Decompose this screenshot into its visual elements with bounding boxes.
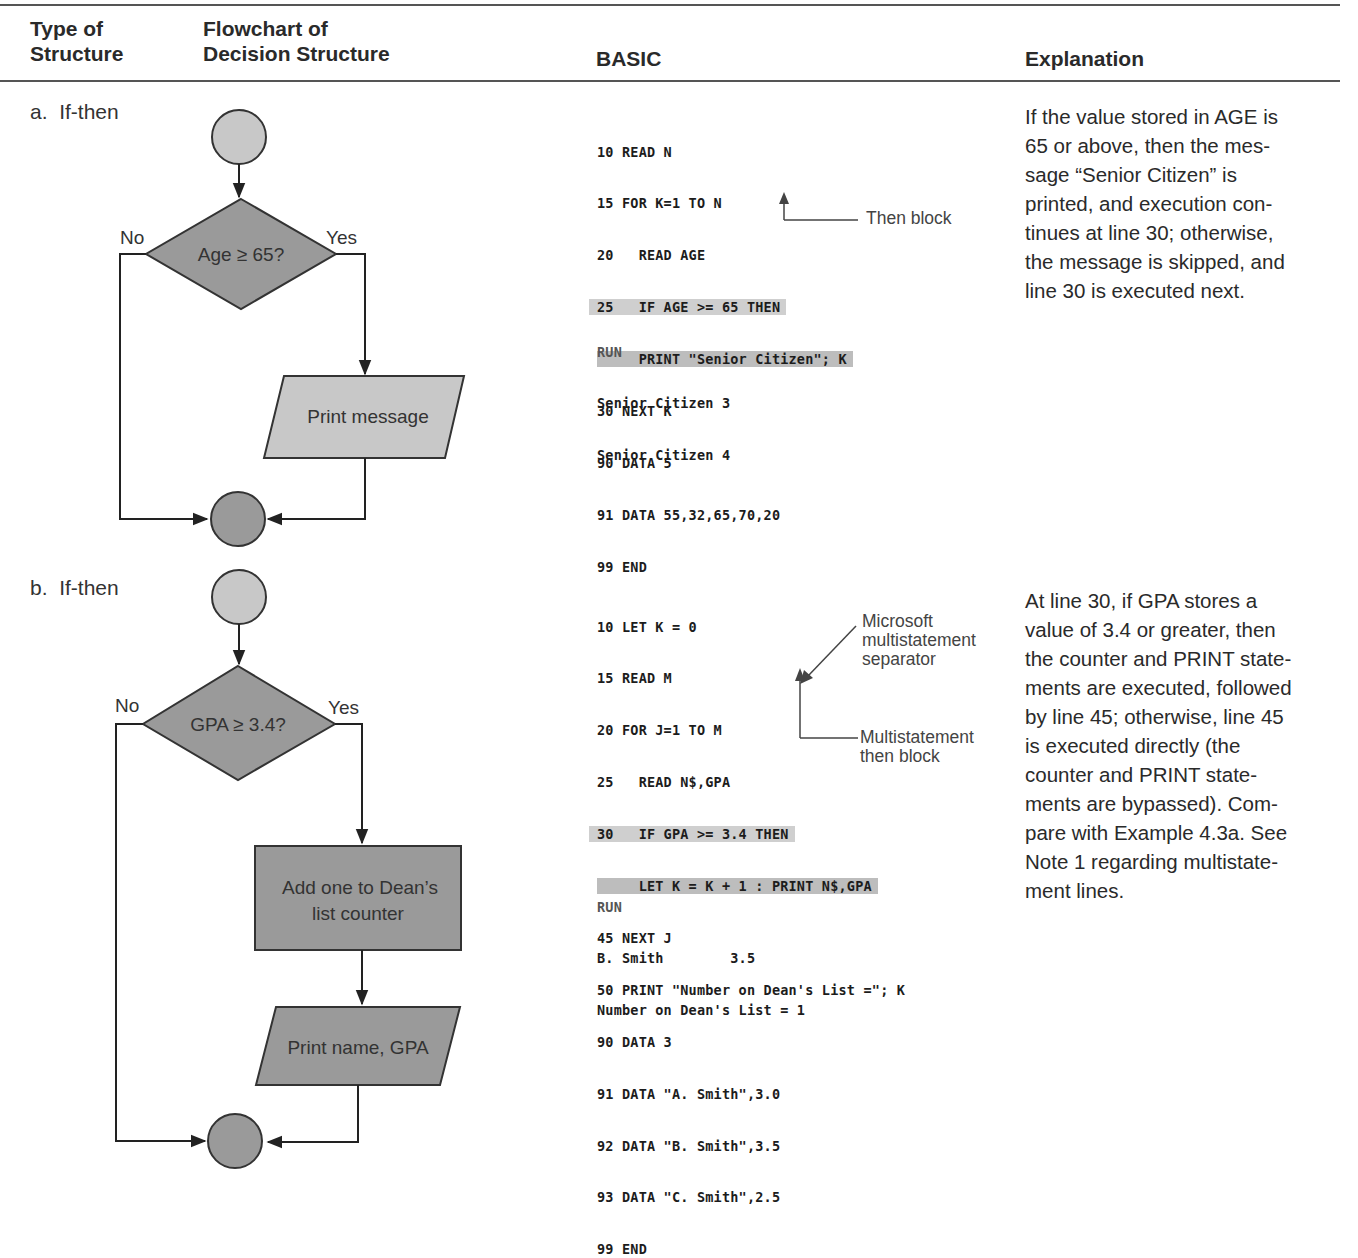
header-line: Flowchart of: [203, 16, 390, 41]
svg-text:Print name, GPA: Print name, GPA: [287, 1037, 428, 1058]
annot-line: Multistatement: [860, 728, 974, 747]
then-block-label-a: Then block: [866, 209, 952, 228]
explanation-a: If the value stored in AGE is 65 or abov…: [1025, 102, 1355, 305]
run-label: RUN: [597, 344, 730, 361]
explanation-line: ment lines.: [1025, 876, 1355, 905]
svg-text:Print message: Print message: [307, 406, 428, 427]
decision-text: Age ≥ 65?: [198, 244, 285, 265]
annot-line: separator: [862, 650, 976, 669]
explanation-line: counter and PRINT state-: [1025, 760, 1355, 789]
run-output-a: RUN Senior Citizen 3 Senior Citizen 4: [597, 309, 730, 482]
output-line: Number on Dean's List = 1: [597, 1002, 805, 1019]
header-basic: BASIC: [596, 46, 661, 71]
explanation-line: pare with Example 4.3a. See: [1025, 818, 1355, 847]
code-line-highlight: 30 IF GPA >= 3.4 THEN: [597, 826, 905, 843]
separator-label-b: Microsoft multistatement separator: [862, 612, 976, 669]
header-bottom-rule: [0, 80, 1340, 82]
explanation-line: 65 or above, then the mes-: [1025, 131, 1355, 160]
start-connector-icon: [212, 570, 266, 624]
header-type-of-structure: Type of Structure: [30, 16, 123, 66]
explanation-line: the message is skipped, and: [1025, 247, 1355, 276]
explanation-line: tinues at line 30; otherwise,: [1025, 218, 1355, 247]
explanation-line: ments are executed, followed: [1025, 673, 1355, 702]
run-output-b: RUN B. Smith 3.5 Number on Dean's List =…: [597, 864, 805, 1037]
header-flowchart: Flowchart of Decision Structure: [203, 16, 390, 66]
start-connector-icon: [212, 110, 266, 164]
explanation-line: value of 3.4 or greater, then: [1025, 615, 1355, 644]
explanation-line: printed, and execution con-: [1025, 189, 1355, 218]
explanation-line: Note 1 regarding multistate-: [1025, 847, 1355, 876]
explanation-line: by line 45; otherwise, line 45: [1025, 702, 1355, 731]
end-connector-icon: [211, 492, 265, 546]
code-line: 25 READ N$,GPA: [597, 774, 905, 791]
svg-text:Add one to Dean’s: Add one to Dean’s: [282, 877, 438, 898]
svg-text:No: No: [120, 227, 144, 248]
flowchart-a: Age ≥ 65? No Yes Print message: [0, 95, 480, 555]
add-counter-shape: [255, 846, 461, 950]
header-line: Decision Structure: [203, 41, 390, 66]
explanation-line: line 30 is executed next.: [1025, 276, 1355, 305]
flowchart-b: GPA ≥ 3.4? No Yes Add one to Dean’s list…: [0, 565, 480, 1205]
top-rule: [0, 4, 1340, 6]
header-line: Type of: [30, 16, 123, 41]
output-line: Senior Citizen 3: [597, 395, 730, 412]
annot-line: then block: [860, 747, 974, 766]
explanation-line: the counter and PRINT state-: [1025, 644, 1355, 673]
code-line: 10 READ N: [597, 144, 853, 161]
code-line: 91 DATA 55,32,65,70,20: [597, 507, 853, 524]
header-line: Structure: [30, 41, 123, 66]
then-block-label-b: Multistatement then block: [860, 728, 974, 766]
annot-line: multistatement: [862, 631, 976, 650]
svg-text:GPA ≥ 3.4?: GPA ≥ 3.4?: [190, 714, 286, 735]
svg-text:No: No: [115, 695, 139, 716]
explanation-line: If the value stored in AGE is: [1025, 102, 1355, 131]
annot-line: Microsoft: [862, 612, 976, 631]
output-line: B. Smith 3.5: [597, 950, 805, 967]
svg-text:Yes: Yes: [326, 227, 357, 248]
explanation-line: sage “Senior Citizen” is: [1025, 160, 1355, 189]
run-label: RUN: [597, 899, 805, 916]
code-line: 92 DATA "B. Smith",3.5: [597, 1138, 905, 1155]
explanation-line: is executed directly (the: [1025, 731, 1355, 760]
code-line: 93 DATA "C. Smith",2.5: [597, 1189, 905, 1206]
code-line: 99 END: [597, 559, 853, 576]
explanation-b: At line 30, if GPA stores a value of 3.4…: [1025, 586, 1355, 905]
svg-text:Yes: Yes: [328, 697, 359, 718]
output-line: Senior Citizen 4: [597, 447, 730, 464]
code-line: 91 DATA "A. Smith",3.0: [597, 1086, 905, 1103]
end-connector-icon: [208, 1114, 262, 1168]
code-line: 20 READ AGE: [597, 247, 853, 264]
explanation-line: ments are bypassed). Com-: [1025, 789, 1355, 818]
header-explanation: Explanation: [1025, 46, 1144, 71]
code-line: 99 END: [597, 1241, 905, 1258]
svg-text:list counter: list counter: [312, 903, 405, 924]
then-block-pointer-b: [790, 665, 870, 745]
explanation-line: At line 30, if GPA stores a: [1025, 586, 1355, 615]
